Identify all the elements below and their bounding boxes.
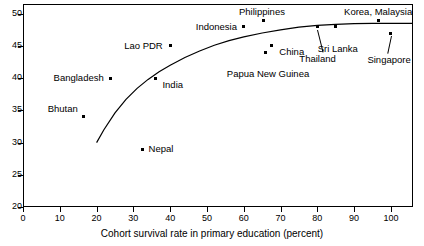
x-tick-mark — [244, 207, 245, 212]
y-tick-label: 50 — [0, 9, 22, 18]
data-point[interactable] — [154, 77, 157, 80]
data-point-label: Singapore — [367, 55, 410, 65]
x-tick-label: 10 — [45, 213, 75, 223]
x-tick-label: 60 — [229, 213, 259, 223]
data-point[interactable] — [242, 25, 245, 28]
y-tick-label: 20 — [0, 202, 22, 211]
x-tick-label: 50 — [192, 213, 222, 223]
data-point[interactable] — [264, 51, 267, 54]
x-tick-mark — [317, 207, 318, 212]
data-point[interactable] — [334, 25, 337, 28]
scatter-chart: 20253035404550 0102030405060708090100 Bh… — [0, 0, 424, 246]
plot-frame — [23, 4, 413, 207]
data-point[interactable] — [316, 25, 319, 28]
y-tick-label: 25 — [0, 170, 22, 179]
x-tick-label: 0 — [8, 213, 38, 223]
x-tick-label: 40 — [155, 213, 185, 223]
x-tick-mark — [60, 207, 61, 212]
data-point[interactable] — [141, 148, 144, 151]
x-tick-label: 80 — [302, 213, 332, 223]
data-point-label: Lao PDR — [124, 41, 163, 51]
data-point-label: Korea, Malaysia — [344, 7, 412, 17]
x-tick-mark — [281, 207, 282, 212]
data-point-label: Indonesia — [196, 22, 237, 32]
data-point[interactable] — [262, 19, 265, 22]
data-point-label: Nepal — [149, 144, 174, 154]
x-tick-mark — [23, 207, 24, 212]
data-point-label: India — [162, 80, 183, 90]
x-tick-label: 20 — [82, 213, 112, 223]
x-tick-mark — [391, 207, 392, 212]
data-point[interactable] — [389, 32, 392, 35]
data-point-label: Sri Lanka — [318, 44, 358, 54]
data-point[interactable] — [270, 44, 273, 47]
x-tick-mark — [170, 207, 171, 212]
data-point-label: Philippines — [239, 7, 285, 17]
y-tick-label: 30 — [0, 138, 22, 147]
x-tick-label: 70 — [266, 213, 296, 223]
x-tick-mark — [207, 207, 208, 212]
x-tick-mark — [354, 207, 355, 212]
data-point-label: Papua New Guinea — [227, 69, 309, 79]
data-point[interactable] — [82, 115, 85, 118]
data-point-label: Bangladesh — [54, 73, 104, 83]
data-point[interactable] — [377, 19, 380, 22]
data-point[interactable] — [169, 44, 172, 47]
data-point-label: Bhutan — [48, 104, 78, 114]
y-tick-label: 35 — [0, 105, 22, 114]
data-point[interactable] — [109, 77, 112, 80]
x-tick-label: 100 — [376, 213, 406, 223]
y-tick-label: 45 — [0, 41, 22, 50]
x-axis-title: Cohort survival rate in primary educatio… — [0, 228, 424, 239]
x-tick-label: 90 — [339, 213, 369, 223]
x-tick-mark — [97, 207, 98, 212]
data-point-label: Thailand — [299, 54, 335, 64]
x-tick-label: 30 — [118, 213, 148, 223]
x-tick-mark — [133, 207, 134, 212]
y-tick-label: 40 — [0, 73, 22, 82]
